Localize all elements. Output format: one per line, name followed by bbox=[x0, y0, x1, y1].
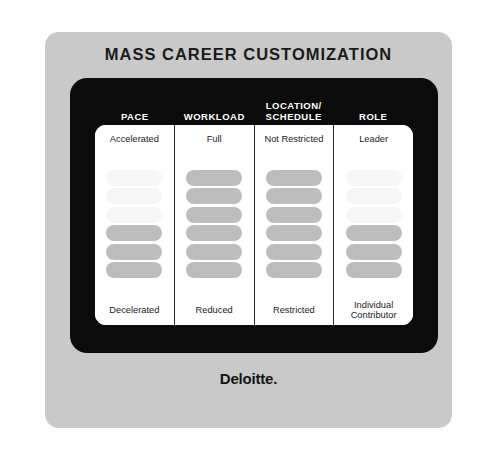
role-pill-1[interactable] bbox=[346, 170, 402, 186]
location-schedule-pill-5[interactable] bbox=[266, 244, 322, 260]
workload-pill-6[interactable] bbox=[186, 262, 242, 278]
outer-card: MASS CAREER CUSTOMIZATION PACE WORKLOAD … bbox=[45, 32, 452, 428]
column-workload[interactable]: Full Reduced bbox=[175, 125, 255, 325]
location-schedule-pill-2[interactable] bbox=[266, 188, 322, 204]
workload-pill-2[interactable] bbox=[186, 188, 242, 204]
role-pill-4[interactable] bbox=[346, 225, 402, 241]
pace-pill-3[interactable] bbox=[106, 207, 162, 223]
column-workload-pill-stack bbox=[175, 153, 254, 295]
location-schedule-pill-3[interactable] bbox=[266, 207, 322, 223]
location-schedule-pill-4[interactable] bbox=[266, 225, 322, 241]
column-location-schedule-top-label: Not Restricted bbox=[255, 125, 334, 153]
column-pace-top-label: Accelerated bbox=[95, 125, 174, 153]
column-header-role: ROLE bbox=[334, 88, 414, 124]
column-location-schedule-bottom-label: Restricted bbox=[255, 295, 334, 325]
column-header-pace: PACE bbox=[95, 88, 175, 124]
column-pace[interactable]: Accelerated Decelerated bbox=[95, 125, 175, 325]
column-header-role-line1: ROLE bbox=[359, 112, 387, 123]
column-location-schedule[interactable]: Not Restricted Restricted bbox=[255, 125, 335, 325]
column-header-pace-line1: PACE bbox=[121, 112, 149, 123]
columns-panel: Accelerated Decelerated Full bbox=[95, 125, 413, 325]
page-title: MASS CAREER CUSTOMIZATION bbox=[45, 45, 452, 64]
column-role-bottom-label-line2: Contributor bbox=[351, 310, 397, 320]
deloitte-wordmark: Deloitte. bbox=[45, 370, 452, 387]
pace-pill-4[interactable] bbox=[106, 225, 162, 241]
workload-pill-1[interactable] bbox=[186, 170, 242, 186]
pace-pill-1[interactable] bbox=[106, 170, 162, 186]
workload-pill-4[interactable] bbox=[186, 225, 242, 241]
role-pill-5[interactable] bbox=[346, 244, 402, 260]
role-pill-3[interactable] bbox=[346, 207, 402, 223]
role-pill-6[interactable] bbox=[346, 262, 402, 278]
column-pace-pill-stack bbox=[95, 153, 174, 295]
pace-pill-6[interactable] bbox=[106, 262, 162, 278]
pace-pill-2[interactable] bbox=[106, 188, 162, 204]
workload-pill-5[interactable] bbox=[186, 244, 242, 260]
location-schedule-pill-1[interactable] bbox=[266, 170, 322, 186]
column-header-workload: WORKLOAD bbox=[175, 88, 255, 124]
column-location-schedule-pill-stack bbox=[255, 153, 334, 295]
column-role-top-label: Leader bbox=[334, 125, 413, 153]
career-customization-figure: MASS CAREER CUSTOMIZATION PACE WORKLOAD … bbox=[0, 0, 494, 456]
column-headers-row: PACE WORKLOAD LOCATION/ SCHEDULE bbox=[95, 88, 413, 124]
column-pace-bottom-label: Decelerated bbox=[95, 295, 174, 325]
column-header-location-schedule: LOCATION/ SCHEDULE bbox=[254, 88, 334, 124]
column-header-workload-line1: WORKLOAD bbox=[184, 112, 245, 123]
column-header-location-schedule-line1: LOCATION/ bbox=[266, 101, 322, 112]
column-role-pill-stack bbox=[334, 153, 413, 295]
black-panel: PACE WORKLOAD LOCATION/ SCHEDULE bbox=[70, 78, 438, 353]
column-role[interactable]: Leader Individual Contributor bbox=[334, 125, 413, 325]
role-pill-2[interactable] bbox=[346, 188, 402, 204]
column-header-location-schedule-line2: SCHEDULE bbox=[266, 112, 322, 123]
column-workload-bottom-label: Reduced bbox=[175, 295, 254, 325]
column-workload-top-label: Full bbox=[175, 125, 254, 153]
location-schedule-pill-6[interactable] bbox=[266, 262, 322, 278]
column-role-bottom-label: Individual Contributor bbox=[334, 295, 413, 325]
pace-pill-5[interactable] bbox=[106, 244, 162, 260]
workload-pill-3[interactable] bbox=[186, 207, 242, 223]
column-role-bottom-label-line1: Individual bbox=[354, 300, 393, 310]
